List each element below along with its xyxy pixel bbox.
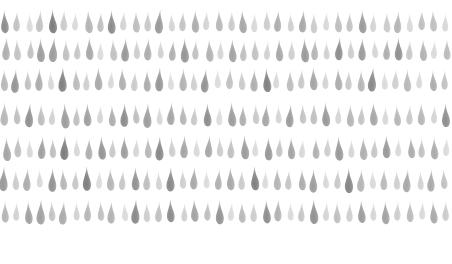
teardrop-motif xyxy=(168,137,177,158)
teardrop-motif xyxy=(119,11,128,32)
teardrop-motif xyxy=(298,139,307,159)
teardrop-motif xyxy=(429,200,439,224)
teardrop-motif xyxy=(273,10,283,33)
teardrop-motif xyxy=(83,102,92,126)
teardrop-motif xyxy=(143,10,151,31)
teardrop-motif xyxy=(214,168,224,190)
teardrop-motif xyxy=(83,10,94,35)
teardrop-motif xyxy=(180,203,188,222)
teardrop-motif xyxy=(226,102,237,128)
teardrop-motif xyxy=(24,70,32,91)
teardrop-motif xyxy=(334,169,342,190)
teardrop-motif xyxy=(179,104,188,126)
teardrop-motif xyxy=(441,69,449,90)
teardrop-motif xyxy=(275,137,284,158)
teardrop-motif xyxy=(119,103,129,128)
teardrop-motif xyxy=(34,68,44,92)
watercolor-pattern-canvas xyxy=(0,0,452,264)
teardrop-motif xyxy=(203,135,213,159)
teardrop-motif xyxy=(144,137,153,159)
teardrop-motif xyxy=(200,68,211,93)
teardrop-motif xyxy=(179,11,188,32)
teardrop-motif xyxy=(1,37,11,61)
teardrop-motif xyxy=(96,201,104,222)
teardrop-motif xyxy=(309,199,320,225)
teardrop-motif xyxy=(299,104,307,125)
teardrop-motif xyxy=(238,69,246,90)
teardrop-motif xyxy=(371,39,380,59)
teardrop-motif xyxy=(120,136,129,160)
teardrop-motif xyxy=(383,12,391,33)
teardrop-motif xyxy=(381,201,391,225)
teardrop-motif xyxy=(142,103,153,129)
teardrop-motif xyxy=(287,136,296,159)
teardrop-motif xyxy=(168,40,178,62)
teardrop-motif xyxy=(297,202,306,223)
teardrop-motif xyxy=(238,170,246,191)
teardrop-motif xyxy=(298,169,307,191)
teardrop-motif xyxy=(346,202,354,223)
teardrop-motif xyxy=(442,12,450,31)
teardrop-motif xyxy=(345,70,353,91)
teardrop-motif xyxy=(190,105,199,126)
teardrop-motif xyxy=(252,104,260,125)
teardrop-motif xyxy=(442,201,450,222)
teardrop-motif xyxy=(72,105,80,126)
teardrop-motif xyxy=(71,170,79,191)
teardrop-motif xyxy=(204,39,214,63)
teardrop-motif xyxy=(204,201,212,222)
teardrop-motif xyxy=(382,135,391,159)
teardrop-motif xyxy=(13,104,22,125)
teardrop-motif xyxy=(131,104,140,125)
teardrop-motif xyxy=(309,67,319,91)
teardrop-motif xyxy=(168,12,176,32)
teardrop-motif xyxy=(322,70,330,90)
teardrop-motif xyxy=(227,202,236,222)
teardrop-motif xyxy=(156,40,164,59)
teardrop-motif xyxy=(107,201,116,224)
teardrop-motif xyxy=(130,199,141,225)
teardrop-motif xyxy=(58,200,69,225)
teardrop-motif xyxy=(214,69,222,89)
teardrop-motif xyxy=(47,168,57,193)
teardrop-motif xyxy=(417,10,425,31)
teardrop-motif xyxy=(97,41,105,61)
teardrop-motif xyxy=(287,13,295,33)
teardrop-motif xyxy=(72,68,81,90)
teardrop-motif xyxy=(82,166,92,192)
teardrop-motif xyxy=(85,37,95,61)
teardrop-motif xyxy=(118,170,127,191)
teardrop-motif xyxy=(60,135,71,161)
teardrop-motif xyxy=(166,166,176,192)
teardrop-motif xyxy=(14,136,23,158)
teardrop-motif xyxy=(166,102,176,126)
teardrop-motif xyxy=(393,105,403,127)
teardrop-motif xyxy=(215,105,223,125)
teardrop-motif xyxy=(36,169,44,188)
teardrop-motif xyxy=(26,39,34,60)
teardrop-motif xyxy=(382,106,390,126)
teardrop-motif xyxy=(249,166,260,192)
teardrop-motif xyxy=(323,137,331,158)
teardrop-motif xyxy=(1,201,10,223)
teardrop-motif xyxy=(180,38,190,64)
teardrop-motif xyxy=(94,67,103,91)
teardrop-motif xyxy=(323,41,331,60)
teardrop-motif xyxy=(344,168,354,194)
teardrop-motif xyxy=(48,8,58,34)
teardrop-motif xyxy=(95,170,103,190)
teardrop-motif xyxy=(261,68,272,94)
teardrop-motif xyxy=(190,70,198,91)
teardrop-motif xyxy=(107,9,117,34)
teardrop-motif xyxy=(49,138,57,159)
teardrop-motif xyxy=(406,13,414,33)
teardrop-motif xyxy=(367,66,378,92)
teardrop-motif xyxy=(108,138,116,159)
teardrop-motif xyxy=(308,169,318,194)
teardrop-motif xyxy=(13,38,22,60)
teardrop-motif xyxy=(261,170,269,190)
teardrop-motif xyxy=(310,103,319,125)
teardrop-motif xyxy=(427,169,437,193)
teardrop-motif xyxy=(154,66,164,92)
teardrop-motif xyxy=(358,10,368,34)
